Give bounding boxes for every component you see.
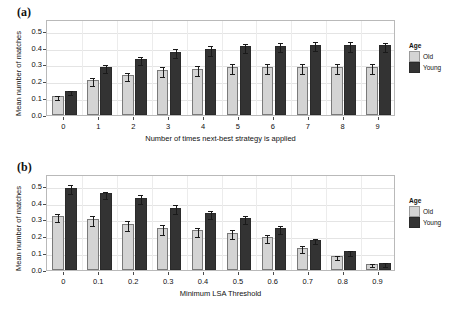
x-tick-mark — [273, 272, 274, 275]
error-bar-cap — [370, 264, 375, 265]
bar-young-9 — [379, 45, 391, 115]
error-bar — [350, 42, 351, 52]
y-tick-label: 0.5 — [20, 27, 42, 36]
error-bar-cap — [348, 256, 353, 257]
error-bar-cap — [370, 267, 375, 268]
grid-line-vertical — [222, 176, 223, 270]
grid-line-vertical — [222, 21, 223, 115]
error-bar — [141, 57, 142, 66]
x-tick-mark — [343, 272, 344, 275]
x-tick-label: 0.1 — [81, 277, 116, 286]
x-tick-mark — [343, 117, 344, 120]
y-tick-label: 0.4 — [20, 44, 42, 53]
panel-a-plot-area — [46, 20, 395, 116]
error-bar — [372, 64, 373, 74]
error-bar-cap — [383, 263, 388, 264]
error-bar — [280, 43, 281, 52]
error-bar — [176, 49, 177, 57]
grid-line-vertical — [187, 21, 188, 115]
bar-young-0.5 — [240, 218, 252, 270]
error-bar-cap — [230, 239, 235, 240]
error-bar-cap — [313, 244, 318, 245]
error-bar-cap — [195, 76, 200, 77]
panel-b-label: (b) — [17, 160, 32, 175]
y-tick-mark — [43, 99, 46, 100]
bar-young-7 — [310, 45, 322, 115]
error-bar — [211, 46, 212, 56]
error-bar-cap — [103, 65, 108, 66]
error-bar-cap — [68, 185, 73, 186]
grid-line-horizontal — [47, 50, 394, 51]
error-bar-cap — [195, 237, 200, 238]
error-bar — [93, 78, 94, 85]
legend-item-young: Young — [409, 217, 441, 228]
x-tick-label: 4 — [186, 122, 221, 131]
error-bar-cap — [160, 77, 165, 78]
legend-label-young: Young — [423, 62, 441, 73]
error-bar-cap — [125, 221, 130, 222]
legend-label-old: Old — [423, 206, 433, 217]
error-bar-cap — [300, 74, 305, 75]
error-bar-cap — [125, 73, 130, 74]
error-bar-cap — [265, 235, 270, 236]
x-tick-label: 9 — [360, 122, 395, 131]
x-tick-label: 3 — [151, 122, 186, 131]
error-bar-cap — [68, 95, 73, 96]
error-bar — [267, 235, 268, 243]
grid-line-vertical — [82, 21, 83, 115]
x-tick-mark — [378, 272, 379, 275]
y-tick-mark — [43, 49, 46, 50]
error-bar-cap — [300, 253, 305, 254]
x-tick-label: 0.8 — [325, 277, 360, 286]
y-tick-mark — [43, 65, 46, 66]
error-bar-cap — [348, 42, 353, 43]
error-bar-cap — [68, 91, 73, 92]
grid-line-vertical — [117, 21, 118, 115]
error-bar-cap — [90, 78, 95, 79]
error-bar-cap — [90, 216, 95, 217]
bar-old-0 — [52, 216, 64, 270]
error-bar-cap — [230, 230, 235, 231]
error-bar — [302, 64, 303, 74]
error-bar-cap — [160, 225, 165, 226]
legend-title: Age — [409, 197, 441, 204]
y-tick-mark — [43, 116, 46, 117]
y-tick-mark — [43, 254, 46, 255]
error-bar-cap — [173, 58, 178, 59]
panel-a-legend: Age Old Young — [409, 42, 441, 73]
legend-swatch-young-icon — [409, 62, 420, 73]
grid-line-horizontal — [47, 33, 394, 34]
error-bar-cap — [265, 243, 270, 244]
panel-b: (b) Mean number of matches Minimum LSA T… — [0, 155, 456, 309]
error-bar — [198, 66, 199, 76]
y-tick-label: 0.3 — [20, 215, 42, 224]
grid-line-horizontal — [47, 205, 394, 206]
bar-young-0.2 — [135, 198, 147, 270]
error-bar-cap — [195, 228, 200, 229]
error-bar — [280, 226, 281, 234]
x-tick-mark — [238, 117, 239, 120]
bar-young-5 — [240, 46, 252, 115]
error-bar-cap — [173, 214, 178, 215]
x-tick-label: 0 — [46, 122, 81, 131]
error-bar-cap — [370, 64, 375, 65]
error-bar-cap — [335, 256, 340, 257]
y-tick-label: 0.2 — [20, 232, 42, 241]
x-tick-label: 0.2 — [116, 277, 151, 286]
legend-label-young: Young — [423, 217, 441, 228]
panel-b-x-axis-title: Minimum LSA Threshold — [46, 289, 395, 298]
error-bar-cap — [138, 57, 143, 58]
x-tick-label: 0.5 — [221, 277, 256, 286]
y-tick-label: 0.0 — [20, 266, 42, 275]
error-bar-cap — [383, 267, 388, 268]
error-bar-cap — [383, 43, 388, 44]
error-bar-cap — [55, 96, 60, 97]
x-tick-label: 7 — [290, 122, 325, 131]
x-tick-label: 5 — [221, 122, 256, 131]
y-tick-mark — [43, 220, 46, 221]
error-bar — [128, 221, 129, 231]
x-tick-mark — [238, 272, 239, 275]
x-tick-mark — [168, 117, 169, 120]
figure-bar-charts: (a) Mean number of matches Number of tim… — [0, 0, 456, 309]
legend-swatch-young-icon — [409, 217, 420, 228]
